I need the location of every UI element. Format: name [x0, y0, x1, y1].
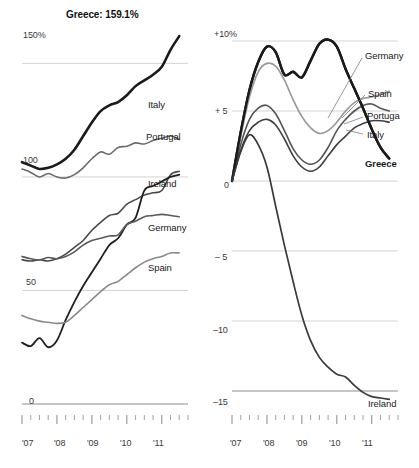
chart-panel-debt: Greece: 159.1% 150% 100 50 0 '07 '08 '09… — [0, 0, 210, 468]
xtick-debt-08: '08 — [54, 438, 65, 448]
ytick-debt-150: 150% — [23, 30, 46, 40]
ytick-gdp-minus10: –10 — [213, 325, 228, 335]
ytick-gdp-zero: 0 — [224, 180, 229, 190]
xtick-debt-07: '07 — [22, 438, 33, 448]
series-label-debt-ireland: Ireland — [148, 178, 176, 189]
chart-panel-gdp: +10% + 5 0 – 5 –10 –15 '07 '08 '09 '10 '… — [210, 0, 419, 468]
series-label-gdp-germany: Germany — [365, 50, 403, 61]
series-label-debt-germany: Germany — [148, 222, 186, 233]
xtick-gdp-08: '08 — [263, 438, 274, 448]
ytick-debt-50: 50 — [26, 277, 36, 287]
ytick-gdp-minus15: –15 — [213, 397, 228, 407]
ytick-debt-0: 0 — [29, 396, 34, 406]
ytick-debt-100: 100 — [23, 155, 38, 165]
ytick-gdp-minus5: – 5 — [215, 252, 227, 262]
series-label-debt-portugal: Portugal — [146, 131, 181, 142]
xtick-debt-09: '09 — [87, 438, 98, 448]
series-label-debt-italy: Italy — [148, 99, 165, 110]
xtick-debt-10: '10 — [120, 438, 131, 448]
series-label-gdp-italy: Italy — [367, 129, 384, 140]
xtick-gdp-09: '09 — [296, 438, 307, 448]
xtick-gdp-10: '10 — [329, 438, 340, 448]
ytick-gdp-plus10: +10% — [214, 29, 237, 39]
xtick-gdp-11: '11 — [362, 438, 373, 448]
series-label-debt-spain: Spain — [148, 262, 172, 273]
xtick-debt-11: '11 — [153, 438, 164, 448]
ytick-gdp-plus5: + 5 — [215, 106, 227, 116]
series-label-gdp-spain: Spain — [368, 88, 392, 99]
series-label-gdp-greece: Greece — [365, 158, 397, 169]
series-label-gdp-portugal: Portuga — [367, 110, 400, 121]
xtick-gdp-07: '07 — [230, 438, 241, 448]
series-label-gdp-ireland: Ireland — [368, 398, 396, 409]
dual-line-chart-figure: Greece: 159.1% 150% 100 50 0 '07 '08 '09… — [0, 0, 419, 468]
